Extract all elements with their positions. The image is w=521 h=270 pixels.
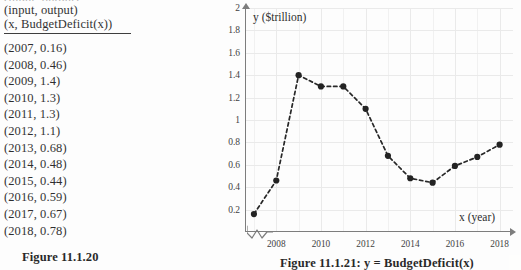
ordered-pair-row: (2007, 0.16) — [4, 41, 67, 56]
data-point-marker: (2009, 1.4) — [296, 72, 302, 78]
data-point-marker: (2014, 0.48) — [407, 175, 413, 181]
ordered-pair-row: (2013, 0.68) — [4, 141, 67, 156]
data-point-marker: (2015, 0.44) — [430, 180, 436, 186]
x-tick-label: 2014 — [401, 239, 420, 249]
y-tick-label: 0.4 — [228, 182, 240, 192]
y-tick-label: 1.4 — [228, 70, 240, 80]
ordered-pair-row: (2009, 1.4) — [4, 74, 60, 89]
data-point-marker: (2017, 0.67) — [474, 154, 480, 160]
input-output-table-column: (input, output) (input, output) (x, Budg… — [0, 0, 200, 270]
plot-area: 0.20.40.60.811.21.41.61.82 2008201020122… — [245, 8, 513, 232]
ordered-pair-row: (2015, 0.44) — [4, 174, 67, 189]
series-dashed-line — [254, 75, 500, 214]
y-tick-label: 0.2 — [228, 205, 240, 215]
data-point-marker: (2016, 0.59) — [452, 163, 458, 169]
x-tick-label: 2018 — [490, 239, 509, 249]
y-tick-label: 1.2 — [228, 93, 240, 103]
ordered-pair-row: (2017, 0.67) — [4, 207, 67, 222]
figure-caption-left: Figure 11.1.20 — [22, 250, 99, 265]
ordered-pair-row: (2010, 1.3) — [4, 91, 60, 106]
ordered-pair-row: (2016, 0.59) — [4, 190, 67, 205]
y-tick-label: 1.8 — [228, 25, 240, 35]
ordered-pair-row: (2018, 0.78) — [4, 224, 67, 239]
y-tick-label: 2 — [235, 3, 240, 13]
x-tick-label: 2016 — [446, 239, 465, 249]
y-tick-label: 1.6 — [228, 48, 240, 58]
chart-column: 0.20.40.60.811.21.41.61.82 2008201020122… — [200, 0, 521, 270]
series-markers: (2007, 0.16)(2008, 0.46)(2009, 1.4)(2010… — [251, 72, 503, 217]
data-series-budget-deficit: (2007, 0.16)(2008, 0.46)(2009, 1.4)(2010… — [245, 8, 513, 232]
ordered-pair-row: (2014, 0.48) — [4, 157, 67, 172]
data-point-marker: (2011, 1.3) — [340, 83, 346, 89]
data-point-marker: (2010, 1.3) — [318, 83, 324, 89]
ordered-pair-row: (2008, 0.46) — [4, 58, 67, 73]
y-tick-label: 0.6 — [228, 160, 240, 170]
ordered-pair-row: (2011, 1.3) — [4, 107, 60, 122]
data-point-marker: (2008, 0.46) — [273, 177, 279, 183]
cut-off-top-text: (input, output) — [4, 0, 79, 1]
table-header-input-output: (input, output) — [4, 3, 78, 18]
data-point-marker: (2018, 0.78) — [497, 142, 503, 148]
data-point-marker: (2007, 0.16) — [251, 211, 257, 217]
x-tick-label: 2008 — [267, 239, 286, 249]
data-point-marker: (2013, 0.68) — [385, 153, 391, 159]
y-tick-label: 0.8 — [228, 137, 240, 147]
ordered-pair-row: (2012, 1.1) — [4, 124, 60, 139]
textbook-page-figure-pair: (input, output) (input, output) (x, Budg… — [0, 0, 521, 270]
x-tick-label: 2010 — [312, 239, 331, 249]
data-point-marker: (2012, 1.1) — [363, 106, 369, 112]
y-tick-label: 1 — [235, 115, 240, 125]
x-tick-label: 2012 — [356, 239, 375, 249]
table-header-function-notation: (x, BudgetDeficit(x)) — [4, 17, 112, 32]
figure-caption-right: Figure 11.1.21: y = BudgetDeficit(x) — [280, 256, 474, 270]
table-header-rule — [4, 33, 131, 34]
